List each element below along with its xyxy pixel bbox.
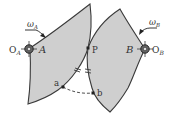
body-b <box>87 9 145 112</box>
point-a-marker <box>62 86 65 89</box>
point-b-label: b <box>97 88 103 98</box>
body-b-label: B <box>125 44 133 55</box>
omega-a-arrow-icon <box>25 30 46 38</box>
pivot-b-label: OB <box>152 45 164 56</box>
omega-b-label: ωB <box>149 17 160 28</box>
dashed-arc-a-b <box>63 87 93 93</box>
rolling-contact-diagram: ωA ωB OA A B OB P a b <box>0 0 178 123</box>
contact-point-label: P <box>92 45 98 55</box>
point-a-label: a <box>54 78 59 88</box>
point-b-marker <box>92 92 95 95</box>
body-a <box>28 4 91 104</box>
omega-b-arrow-icon <box>139 28 157 35</box>
pivot-a-label: OA <box>9 45 21 56</box>
omega-a-label: ωA <box>27 19 38 30</box>
body-a-label: A <box>38 44 46 55</box>
contact-point-p <box>87 47 90 50</box>
